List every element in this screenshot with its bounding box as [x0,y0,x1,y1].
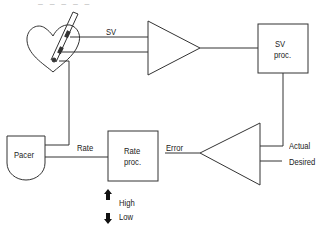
error-label: Error [166,143,183,153]
rate-label: Rate [77,143,93,153]
sv-amplifier [148,21,200,75]
comparator [200,123,260,185]
high-label: High [119,198,135,208]
arrow-down-icon [104,213,112,224]
high-low-arrows [104,189,112,224]
arrow-up-icon [104,189,112,200]
actual-label: Actual [289,141,310,151]
heart-icon [27,25,80,72]
block-diagram [0,0,319,231]
rate-proc-label-1: Rate [124,146,140,156]
rate-proc-label-2: proc. [124,157,141,167]
header-fragment: — — — — — [38,0,90,9]
pacer-label: Pacer [14,150,34,160]
rate-proc-box [108,131,158,181]
sv-label: SV [106,27,116,37]
sv-proc-label-1: SV [275,39,285,49]
low-label: Low [119,212,133,222]
sv-proc-label-2: proc. [274,50,291,60]
desired-label: Desired [289,157,315,167]
